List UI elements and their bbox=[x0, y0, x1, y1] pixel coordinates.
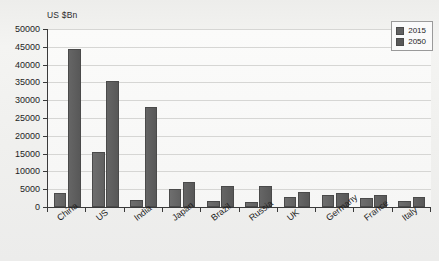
bar-us-2050[interactable] bbox=[106, 81, 119, 207]
y-tick-label: 0 bbox=[0, 202, 40, 212]
chart-legend: 2015 2050 bbox=[391, 21, 433, 51]
bar-group-germany bbox=[316, 29, 354, 207]
x-tick-mark bbox=[239, 207, 240, 212]
y-tick-label: 15000 bbox=[0, 149, 40, 159]
bar-group-uk bbox=[278, 29, 316, 207]
plot-area bbox=[47, 29, 431, 208]
x-tick-mark bbox=[353, 207, 354, 212]
x-tick-label-uk: UK bbox=[285, 207, 301, 223]
bar-group-japan bbox=[163, 29, 201, 207]
y-tick-label: 20000 bbox=[0, 131, 40, 141]
bar-group-france bbox=[354, 29, 392, 207]
y-tick-label: 50000 bbox=[0, 24, 40, 34]
legend-swatch-2050-icon bbox=[396, 38, 404, 46]
bar-us-2015[interactable] bbox=[92, 152, 105, 207]
x-tick-mark bbox=[124, 207, 125, 212]
x-tick-mark bbox=[200, 207, 201, 212]
bar-india-2015[interactable] bbox=[130, 200, 143, 207]
bar-india-2050[interactable] bbox=[145, 107, 158, 207]
y-axis: 0500010000150002000025000300003500040000… bbox=[0, 29, 47, 208]
y-tick-label: 35000 bbox=[0, 77, 40, 87]
bar-china-2050[interactable] bbox=[68, 49, 81, 207]
x-tick-mark bbox=[392, 207, 393, 212]
y-tick-label: 25000 bbox=[0, 113, 40, 123]
y-axis-unit-label: US $Bn bbox=[47, 10, 78, 20]
bar-group-brazil bbox=[201, 29, 239, 207]
y-tick-label: 40000 bbox=[0, 60, 40, 70]
legend-label-2015: 2015 bbox=[408, 26, 426, 35]
bar-group-china bbox=[48, 29, 86, 207]
bar-group-italy bbox=[393, 29, 431, 207]
x-tick-mark bbox=[162, 207, 163, 212]
bar-chart-figure: US $Bn 050001000015000200002500030000350… bbox=[0, 0, 439, 261]
bar-group-us bbox=[86, 29, 124, 207]
x-axis: ChinaUSIndiaJapanBrazilRussiaUKGermanyFr… bbox=[47, 207, 430, 261]
bar-france-2015[interactable] bbox=[360, 198, 373, 207]
legend-entry-2050: 2050 bbox=[396, 36, 426, 47]
bar-japan-2015[interactable] bbox=[169, 189, 182, 207]
bar-china-2015[interactable] bbox=[54, 193, 67, 207]
y-tick-label: 5000 bbox=[0, 184, 40, 194]
bar-uk-2050[interactable] bbox=[298, 192, 311, 207]
bar-group-russia bbox=[240, 29, 278, 207]
x-tick-mark bbox=[430, 207, 431, 212]
bar-group-india bbox=[125, 29, 163, 207]
legend-label-2050: 2050 bbox=[408, 37, 426, 46]
x-tick-label-us: US bbox=[94, 207, 110, 223]
x-tick-mark bbox=[85, 207, 86, 212]
bar-germany-2015[interactable] bbox=[322, 195, 335, 207]
bar-uk-2015[interactable] bbox=[284, 197, 297, 207]
y-tick-label: 45000 bbox=[0, 42, 40, 52]
legend-swatch-2015-icon bbox=[396, 27, 404, 35]
legend-entry-2015: 2015 bbox=[396, 25, 426, 36]
y-tick-label: 10000 bbox=[0, 166, 40, 176]
x-tick-mark bbox=[47, 207, 48, 212]
x-tick-label-italy: Italy bbox=[400, 205, 419, 223]
bars-layer bbox=[48, 29, 431, 207]
x-tick-mark bbox=[315, 207, 316, 212]
y-tick-label: 30000 bbox=[0, 95, 40, 105]
x-tick-mark bbox=[277, 207, 278, 212]
